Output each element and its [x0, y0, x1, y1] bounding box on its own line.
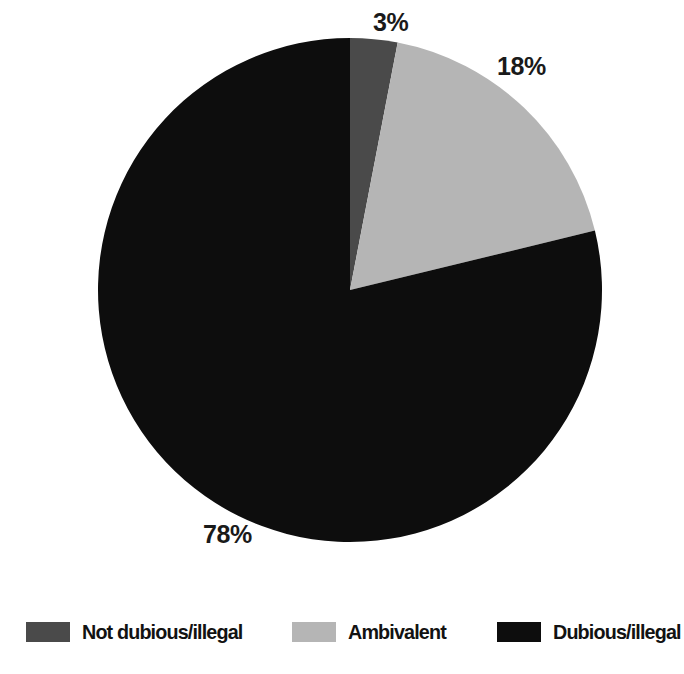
- legend-label-dubious-illegal: Dubious/illegal: [553, 620, 681, 644]
- legend-item-dubious-illegal[interactable]: Dubious/illegal: [497, 614, 684, 650]
- slice-value-label-not-dubious-illegal: 3%: [373, 10, 408, 35]
- legend-swatch-icon-not-dubious-illegal: [26, 622, 70, 642]
- pie-plot-area: 3% 18% 78%: [0, 0, 684, 590]
- legend-item-ambivalent[interactable]: Ambivalent: [292, 614, 452, 650]
- pie-slice-group: [98, 38, 602, 542]
- pie-chart-figure: 3% 18% 78% Not dubious/illegal Ambivalen…: [0, 0, 684, 674]
- pie-svg: [0, 0, 684, 590]
- legend-label-ambivalent: Ambivalent: [348, 620, 446, 644]
- legend-label-not-dubious-illegal: Not dubious/illegal: [82, 620, 242, 644]
- legend-swatch-icon-dubious-illegal: [497, 622, 541, 642]
- chart-legend: Not dubious/illegal Ambivalent Dubious/i…: [0, 614, 684, 654]
- slice-value-label-dubious-illegal: 78%: [203, 522, 252, 547]
- legend-item-not-dubious-illegal[interactable]: Not dubious/illegal: [26, 614, 253, 650]
- legend-swatch-icon-ambivalent: [292, 622, 336, 642]
- slice-value-label-ambivalent: 18%: [497, 54, 546, 79]
